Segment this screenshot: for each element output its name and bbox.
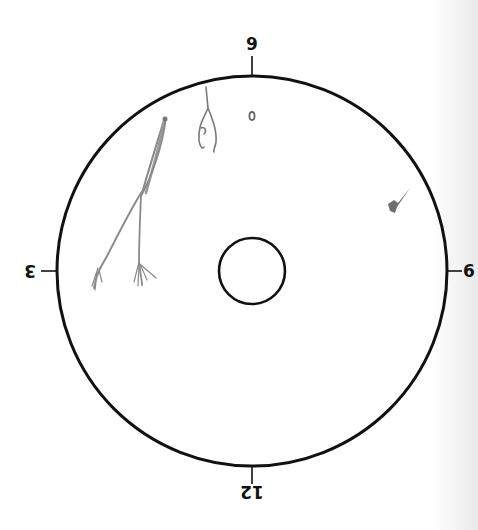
clock-label-left: 3 — [24, 261, 36, 281]
center-circle — [219, 238, 285, 304]
clock-label-bottom: 12 — [240, 482, 264, 502]
clock-label-top: 9 — [246, 34, 258, 54]
clock-field-diagram: 9 6 12 3 — [0, 0, 478, 530]
outer-field-circle — [57, 76, 447, 466]
small-spot — [249, 112, 254, 120]
clock-label-right: 6 — [463, 261, 475, 281]
looped-fiber — [199, 87, 216, 152]
small-particle — [388, 188, 410, 213]
